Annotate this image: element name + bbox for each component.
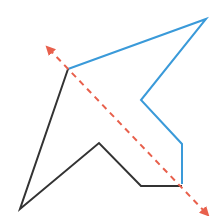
symmetry-diagram	[0, 0, 214, 216]
blue-half-outline	[68, 19, 206, 184]
symmetry-axis-dashed-arrow	[49, 49, 206, 213]
black-half-outline	[20, 69, 182, 209]
